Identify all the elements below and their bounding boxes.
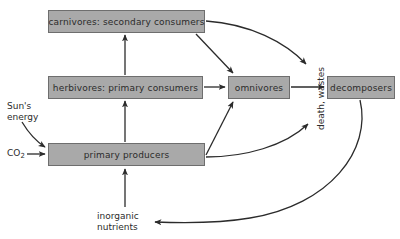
edge-suns-energy-to-producers	[22, 122, 45, 147]
label-inorganic-nutrients: inorganic nutrients	[97, 211, 139, 232]
edge-producers-to-omnivores	[206, 102, 233, 155]
node-carnivores-label: carnivores: secondary consumers	[48, 17, 204, 27]
node-decomposers[interactable]: decomposers	[327, 76, 395, 99]
label-death-wastes: death, wastes	[316, 67, 326, 130]
edge-layer	[0, 0, 400, 239]
label-suns-energy: Sun's energy	[7, 101, 38, 122]
node-herbivores[interactable]: herbivores: primary consumers	[48, 76, 203, 99]
node-primary-producers-label: primary producers	[84, 150, 170, 160]
node-carnivores[interactable]: carnivores: secondary consumers	[48, 10, 205, 33]
label-co2-subscript: 2	[20, 152, 24, 160]
food-web-diagram: carnivores: secondary consumers herbivor…	[0, 0, 400, 239]
node-decomposers-label: decomposers	[330, 83, 392, 93]
label-co2-text: CO	[7, 148, 20, 158]
node-herbivores-label: herbivores: primary consumers	[53, 83, 198, 93]
edge-carnivores-to-omnivores	[196, 34, 233, 73]
edge-carnivores-to-death-wastes	[206, 21, 306, 64]
edge-producers-to-death-wastes	[206, 124, 308, 157]
node-omnivores-label: omnivores	[235, 83, 283, 93]
node-omnivores[interactable]: omnivores	[228, 76, 290, 99]
label-co2: CO2	[7, 148, 25, 162]
node-primary-producers[interactable]: primary producers	[48, 143, 205, 166]
